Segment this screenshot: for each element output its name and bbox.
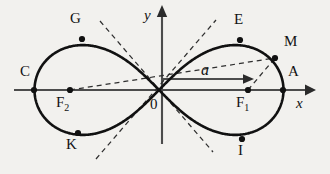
point-label-i: I	[238, 143, 243, 158]
point-marker-f2	[67, 87, 73, 93]
point-label-f1: F1	[236, 95, 249, 113]
point-marker-f1	[245, 87, 251, 93]
point-label-g: G	[70, 11, 81, 26]
point-label-a: A	[288, 64, 299, 79]
point-marker-a	[280, 87, 286, 93]
point-label-k: K	[66, 137, 77, 152]
focal-radius-F2-M-icon	[70, 58, 275, 90]
point-label-f2: F2	[56, 95, 69, 113]
axes-group	[14, 5, 316, 144]
point-marker-e	[237, 37, 243, 43]
point-marker-m	[272, 55, 278, 61]
point-label-subscript: 2	[64, 102, 69, 113]
point-label-e: E	[234, 12, 243, 27]
y-axis-arrowhead	[157, 5, 167, 17]
lemniscate-diagram-svg	[0, 0, 330, 174]
x-axis-label: x	[296, 96, 303, 111]
figure-canvas: CGKF20EIMF1A x y a	[0, 0, 330, 174]
semi-axis-a-label: a	[201, 62, 209, 78]
point-label-m: M	[284, 34, 297, 49]
point-label-subscript: 1	[244, 102, 249, 113]
x-axis-arrowhead	[305, 85, 316, 96]
focal-radii-group	[70, 58, 275, 90]
point-label-o: 0	[150, 97, 158, 112]
focal-radius-F1-M-icon	[248, 58, 275, 90]
y-axis-label: y	[144, 8, 151, 23]
vector-a-arrowhead	[243, 74, 254, 84]
point-marker-c	[31, 87, 37, 93]
point-label-c: C	[20, 64, 30, 79]
point-marker-g	[79, 36, 85, 42]
